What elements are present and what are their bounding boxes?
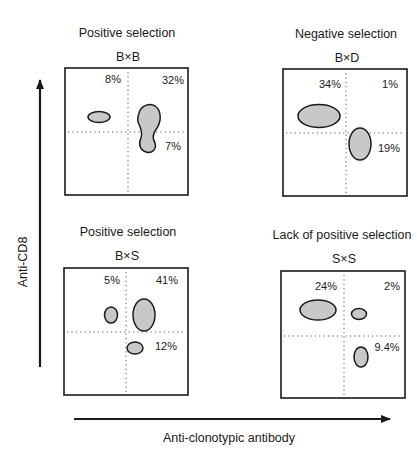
pct-upper-left: 34% <box>319 78 341 90</box>
panel-cross: B×S <box>115 249 139 263</box>
population-double-positive <box>352 309 367 320</box>
y-axis-label: Anti-CD8 <box>16 237 30 288</box>
pct-upper-left: 24% <box>315 280 337 292</box>
panel-title: Negative selection <box>295 27 397 41</box>
panel-bxb: Positive selection B×B 8% 32% 7% <box>65 26 188 195</box>
panel-bxs: Positive selection B×S 5% 41% 12% <box>64 225 188 395</box>
pct-lower-right: 9.4% <box>374 341 399 353</box>
population-cd8-single <box>300 300 336 320</box>
population-clonotypic-single <box>354 347 368 367</box>
panel-cross: S×S <box>332 252 356 266</box>
y-axis: Anti-CD8 <box>16 80 40 367</box>
panel-title: Positive selection <box>80 225 177 239</box>
panel-title: Lack of positive selection <box>273 228 412 242</box>
pct-upper-right: 1% <box>382 78 398 90</box>
pct-lower-right: 7% <box>165 140 181 152</box>
pct-upper-left: 5% <box>104 274 120 286</box>
population-cd8-single <box>105 307 118 323</box>
panel-sxs: Lack of positive selection S×S 24% 2% 9.… <box>273 228 412 398</box>
panel-cross: B×B <box>116 50 140 64</box>
x-axis: Anti-clonotypic antibody <box>74 419 390 445</box>
population-double-positive <box>349 128 371 160</box>
pct-upper-right: 32% <box>162 74 184 86</box>
population-double-positive <box>133 299 155 331</box>
x-axis-label: Anti-clonotypic antibody <box>163 431 296 445</box>
panel-cross: B×D <box>335 51 360 65</box>
pct-upper-right: 2% <box>384 280 400 292</box>
pct-upper-left: 8% <box>105 73 121 85</box>
panel-bxd: Negative selection B×D 34% 1% 19% <box>283 27 407 196</box>
pct-upper-right: 41% <box>156 274 178 286</box>
pct-lower-right: 12% <box>155 340 177 352</box>
pct-lower-right: 19% <box>378 142 400 154</box>
population-cd8-single <box>88 112 110 123</box>
panel-title: Positive selection <box>79 26 176 40</box>
population-clonotypic-single <box>127 342 143 354</box>
population-double-positive <box>138 105 161 153</box>
flow-cytometry-diagram: Anti-CD8 Anti-clonotypic antibody Positi… <box>0 0 417 463</box>
population-cd8-single <box>298 105 340 128</box>
